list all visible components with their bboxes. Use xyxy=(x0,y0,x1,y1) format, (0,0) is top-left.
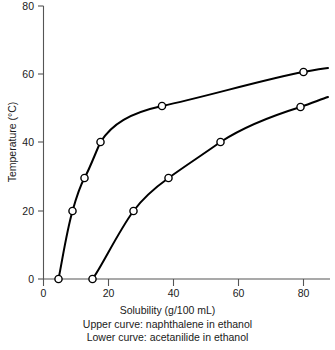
y-tick-label-20: 20 xyxy=(22,205,34,217)
data-point xyxy=(297,103,304,110)
data-point xyxy=(97,138,104,145)
data-point xyxy=(300,68,307,75)
data-point xyxy=(158,102,165,109)
y-tick-label-80: 80 xyxy=(22,0,34,12)
y-tick-label-0: 0 xyxy=(28,273,34,285)
curve-acetanilide xyxy=(93,97,329,279)
solubility-chart: 80 60 40 20 0 0 20 40 60 80 Temperature … xyxy=(0,0,335,350)
x-tick-label-80: 80 xyxy=(298,287,310,299)
x-tick-label-40: 40 xyxy=(168,287,180,299)
x-tick-label-20: 20 xyxy=(103,287,115,299)
data-markers-acetanilide xyxy=(89,103,304,282)
x-axis-title: Solubility (g/100 mL) xyxy=(0,304,335,318)
data-point xyxy=(81,174,88,181)
x-tick-label-0: 0 xyxy=(41,287,47,299)
y-tick-label-60: 60 xyxy=(22,68,34,80)
legend-lower-curve-note: Lower curve: acetanilide in ethanol xyxy=(0,331,335,345)
data-point xyxy=(69,207,76,214)
chart-plot-area: 80 60 40 20 0 0 20 40 60 80 Temperature … xyxy=(0,0,335,350)
legend-upper-curve-note: Upper curve: naphthalene in ethanol xyxy=(0,318,335,332)
data-point xyxy=(217,138,224,145)
data-point xyxy=(55,275,62,282)
chart-caption: Solubility (g/100 mL) Upper curve: napht… xyxy=(0,304,335,345)
x-axis-ticks xyxy=(44,279,304,286)
y-tick-label-40: 40 xyxy=(22,136,34,148)
curve-naphthalene xyxy=(59,68,329,279)
data-point xyxy=(165,174,172,181)
y-axis-title: Temperature (°C) xyxy=(6,102,18,183)
y-axis-ticks xyxy=(38,6,44,279)
data-point xyxy=(130,207,137,214)
data-markers-naphthalene xyxy=(55,68,307,282)
x-tick-label-60: 60 xyxy=(233,287,245,299)
data-point xyxy=(89,275,96,282)
